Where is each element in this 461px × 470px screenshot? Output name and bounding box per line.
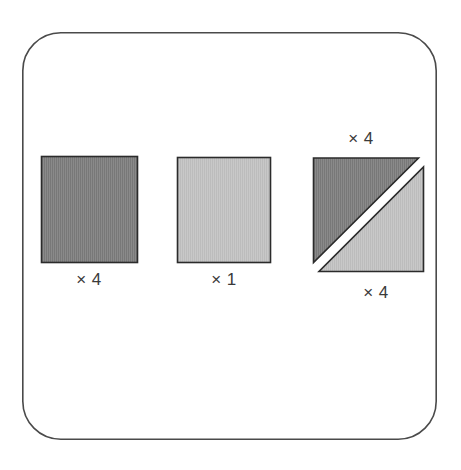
light-square-multiplier-label: × 1 [211,270,237,289]
figure-root: × 4 × 1 × 4 × 4 [0,0,461,470]
dark-square [42,157,138,263]
shape-multiplier-figure: × 4 × 1 × 4 × 4 [0,0,461,470]
dark-square-multiplier-label: × 4 [76,270,102,289]
light-triangle-multiplier-label: × 4 [363,283,389,302]
dark-triangle-multiplier-label: × 4 [348,129,374,148]
light-square [178,158,271,263]
